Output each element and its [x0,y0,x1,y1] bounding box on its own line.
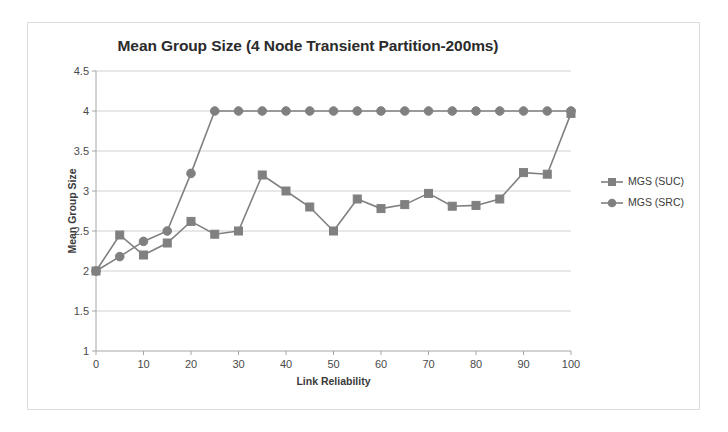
data-point [163,227,172,236]
y-tick-label: 3 [83,185,89,197]
data-point [116,231,124,239]
x-tick-label: 80 [470,358,482,370]
data-point [140,251,148,259]
plot-svg [96,71,571,351]
data-point [235,227,243,235]
data-point [377,107,386,116]
y-tick-label: 2.5 [74,225,89,237]
data-point [401,201,409,209]
data-point [496,195,504,203]
y-tick-label: 2 [83,265,89,277]
x-tick-label: 60 [375,358,387,370]
data-point [495,107,504,116]
data-point [353,107,362,116]
legend-square-marker-icon [600,176,624,188]
x-tick-label: 100 [562,358,580,370]
chart-title: Mean Group Size (4 Node Transient Partit… [28,37,588,55]
legend-item-1[interactable]: MGS (SRC) [600,192,700,213]
data-point [258,171,266,179]
data-point [329,107,338,116]
legend-label: MGS (SUC) [628,176,684,187]
data-point [210,107,219,116]
data-point [425,189,433,197]
data-point [543,107,552,116]
data-point [234,107,243,116]
data-point [282,187,290,195]
x-tick-label: 10 [137,358,149,370]
data-point [472,107,481,116]
data-point [567,107,576,116]
data-point [472,201,480,209]
legend-item-0[interactable]: MGS (SUC) [600,171,700,192]
data-point [306,203,314,211]
data-point [519,107,528,116]
x-tick-label: 40 [280,358,292,370]
legend-label: MGS (SRC) [628,197,684,208]
x-tick-label: 0 [93,358,99,370]
y-tick-label: 4.5 [74,65,89,77]
data-point [92,267,101,276]
data-point [211,230,219,238]
x-tick-label: 30 [232,358,244,370]
data-point [424,107,433,116]
x-tick-label: 90 [517,358,529,370]
data-point [353,195,361,203]
x-tick-label: 50 [327,358,339,370]
data-point [400,107,409,116]
data-point [448,107,457,116]
x-axis-title: Link Reliability [96,375,571,387]
x-tick-label: 70 [422,358,434,370]
data-point [139,237,148,246]
chart-container: Mean Group Size (4 Node Transient Partit… [27,22,700,410]
x-tick-label: 20 [185,358,197,370]
y-tick-label: 1.5 [74,305,89,317]
y-axis-title-label: Mean Group Size [66,168,78,253]
plot-area: 11.522.533.544.5 0102030405060708090100 [96,71,571,351]
data-point [115,252,124,261]
y-tick-label: 4 [83,105,89,117]
data-point [330,227,338,235]
data-point [187,217,195,225]
data-point [305,107,314,116]
data-point [258,107,267,116]
data-point [377,205,385,213]
chart-legend: MGS (SUC)MGS (SRC) [600,171,700,213]
y-tick-label: 1 [83,345,89,357]
legend-circle-marker-icon [600,197,624,209]
data-point [282,107,291,116]
data-point [520,169,528,177]
y-tick-label: 3.5 [74,145,89,157]
data-point [448,202,456,210]
data-point [163,239,171,247]
data-point [543,170,551,178]
data-point [187,169,196,178]
